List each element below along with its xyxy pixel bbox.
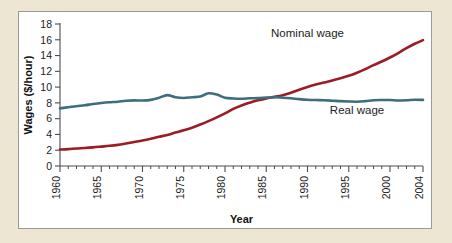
wage-line-chart: 0246810121416181960196519701975198019851… <box>19 12 431 228</box>
chart-panel: 0246810121416181960196519701975198019851… <box>18 11 432 229</box>
x-tick-label: 1995 <box>339 176 351 200</box>
x-tick-label: 1965 <box>91 176 103 200</box>
y-tick-label: 16 <box>40 34 52 46</box>
x-axis-title: Year <box>230 213 254 225</box>
x-tick-label: 1960 <box>50 176 62 200</box>
x-tick-label: 2004 <box>413 176 425 200</box>
x-tick-label: 1985 <box>256 176 268 200</box>
y-tick-label: 12 <box>40 65 52 77</box>
y-tick-label: 2 <box>46 144 52 156</box>
series-annotation-real-wage: Real wage <box>330 104 384 116</box>
y-tick-label: 4 <box>46 128 52 140</box>
y-tick-label: 0 <box>46 160 52 172</box>
y-tick-label: 8 <box>46 97 52 109</box>
x-tick-label: 1975 <box>174 176 186 200</box>
y-tick-label: 14 <box>40 49 52 61</box>
y-tick-label: 6 <box>46 112 52 124</box>
y-tick-label: 18 <box>40 18 52 30</box>
y-tick-label: 10 <box>40 81 52 93</box>
y-axis-title: Wages ($/hour) <box>22 55 34 134</box>
x-tick-label: 1990 <box>298 176 310 200</box>
figure-container: 0246810121416181960196519701975198019851… <box>0 0 452 243</box>
series-annotation-nominal-wage: Nominal wage <box>271 27 344 39</box>
x-tick-label: 2000 <box>380 176 392 200</box>
series-line-nominal-wage <box>60 40 423 149</box>
x-tick-label: 1980 <box>215 176 227 200</box>
x-tick-label: 1970 <box>133 176 145 200</box>
